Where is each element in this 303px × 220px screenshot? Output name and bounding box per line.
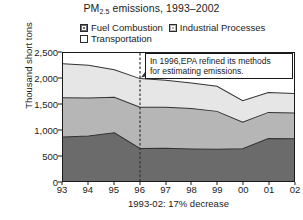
- x-tick-label: 95: [108, 184, 119, 195]
- chart-container: PM2.5 emissions, 1993–2002 Fuel Combusti…: [0, 0, 303, 220]
- x-axis-tick-labels: 93949596979899000102: [62, 184, 295, 198]
- legend-label-fuel-combustion: Fuel Combustion: [91, 22, 163, 33]
- x-tick-label: 98: [186, 184, 197, 195]
- legend-label-industrial-processes: Industrial Processes: [180, 22, 266, 33]
- legend-swatch-transportation-icon: [80, 35, 88, 43]
- chart-title-main: PM: [83, 2, 99, 14]
- x-tick-label: 02: [290, 184, 301, 195]
- legend-swatch-industrial-processes-icon: [169, 24, 177, 32]
- legend-item-fuel-combustion: Fuel Combustion: [80, 22, 163, 33]
- chart-title-subscript: 2.5: [99, 8, 109, 15]
- x-tick-label: 97: [160, 184, 171, 195]
- legend-item-transportation: Transportation: [80, 33, 152, 44]
- chart-title-rest: emissions, 1993–2002: [109, 2, 219, 14]
- annotation-line-1: In 1996,EPA refined its methods: [150, 56, 289, 66]
- x-axis-caption: 1993-02: 17% decrease: [62, 198, 295, 209]
- annotation-line-2: for estimating emissions.: [150, 66, 289, 76]
- x-tick-label: 00: [238, 184, 249, 195]
- legend-item-industrial-processes: Industrial Processes: [169, 22, 266, 33]
- legend-row-2: Transportation: [80, 33, 295, 44]
- y-axis-tick-marks: [0, 52, 62, 182]
- chart-legend: Fuel Combustion Industrial Processes Tra…: [80, 22, 295, 44]
- legend-swatch-fuel-combustion-icon: [80, 24, 88, 32]
- x-tick-label: 94: [83, 184, 94, 195]
- x-tick-label: 01: [264, 184, 275, 195]
- x-tick-label: 93: [57, 184, 68, 195]
- annotation-callout: In 1996,EPA refined its methods for esti…: [145, 53, 293, 79]
- legend-row-1: Fuel Combustion Industrial Processes: [80, 22, 295, 33]
- x-tick-label: 96: [134, 184, 145, 195]
- x-tick-label: 99: [212, 184, 223, 195]
- chart-title: PM2.5 emissions, 1993–2002: [0, 2, 303, 15]
- legend-label-transportation: Transportation: [91, 33, 152, 44]
